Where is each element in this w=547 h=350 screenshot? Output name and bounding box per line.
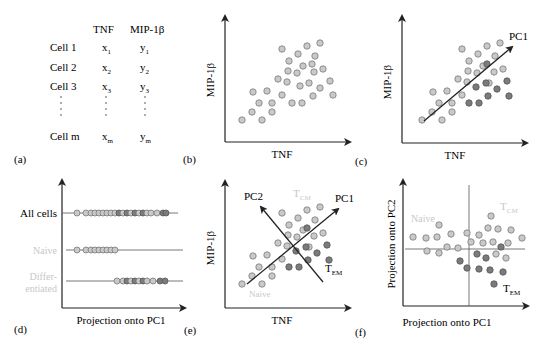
data-point — [300, 63, 306, 69]
row-cell-label: Cell m — [50, 130, 80, 142]
row-y-value: y1 — [140, 41, 150, 56]
panel-e-label: (e) — [184, 324, 197, 337]
panel-f-xlabel: Projection onto PC1 — [402, 316, 491, 328]
panel-d-xlabel: Projection onto PC1 — [76, 314, 165, 326]
panel-b-xlabel: TNF — [272, 148, 293, 160]
panel-c-label: (c) — [355, 155, 368, 168]
data-point — [310, 93, 316, 99]
data-point — [264, 88, 270, 94]
data-point — [495, 226, 501, 232]
data-point — [464, 230, 470, 236]
data-point — [320, 230, 326, 236]
data-point — [330, 92, 336, 98]
data-point — [465, 68, 471, 74]
data-point — [423, 235, 429, 241]
row-cell-label: Cell 2 — [50, 61, 77, 73]
data-point — [519, 235, 525, 241]
data-point — [459, 46, 465, 52]
data-point — [483, 255, 489, 261]
data-point — [500, 269, 506, 275]
data-point — [249, 109, 255, 115]
data-point — [294, 234, 300, 240]
data-point — [490, 239, 496, 245]
data-point — [114, 278, 120, 284]
data-point — [259, 281, 265, 287]
panel-b-ylabel: MIP-1β — [204, 62, 216, 97]
data-point — [317, 204, 323, 210]
data-point — [444, 88, 450, 94]
panel-b-points — [239, 40, 336, 123]
row-x-value: xm — [102, 130, 114, 145]
header-tnf: TNF — [93, 23, 114, 35]
row-y-value: ym — [140, 130, 152, 145]
data-point — [312, 217, 318, 223]
data-point — [317, 85, 323, 91]
data-point — [466, 100, 472, 106]
data-point — [466, 58, 472, 64]
data-point — [275, 240, 281, 246]
tcm-label: TCM — [500, 200, 518, 215]
data-point — [264, 252, 270, 258]
data-point — [485, 225, 491, 231]
data-point — [436, 222, 442, 228]
data-point — [410, 234, 416, 240]
data-point — [286, 264, 292, 270]
data-point — [506, 93, 512, 99]
data-point — [455, 245, 461, 251]
data-point — [436, 100, 442, 106]
panel-e-ylabel: MIP-1β — [204, 230, 216, 265]
data-point — [500, 66, 506, 72]
data-point — [491, 281, 497, 287]
pc2-label: PC2 — [244, 190, 263, 202]
data-point — [327, 78, 333, 84]
data-point — [295, 51, 301, 57]
data-point — [488, 213, 494, 219]
data-point — [259, 117, 265, 123]
row-differ: Differ- — [30, 271, 57, 282]
data-point — [455, 76, 461, 82]
data-point — [163, 210, 169, 216]
panel-a-table: TNF MIP-1β Cell 1x1y1Cell 2x2y2Cell 3x3y… — [14, 23, 165, 166]
data-point — [284, 79, 290, 85]
data-point — [256, 100, 262, 106]
data-point — [275, 76, 281, 82]
data-point — [74, 247, 80, 253]
data-point — [279, 210, 285, 216]
data-point — [444, 244, 450, 250]
data-point — [505, 240, 511, 246]
panel-c: PC1 TNF MIP-1β (c) — [355, 16, 528, 168]
naive-label: Naive — [249, 289, 271, 299]
data-point — [144, 278, 150, 284]
data-point — [493, 251, 499, 257]
row-y-value: y3 — [140, 80, 150, 95]
data-point — [314, 250, 320, 256]
panel-b: TNF MIP-1β (b) — [183, 16, 350, 166]
data-point — [269, 109, 275, 115]
data-point — [239, 281, 245, 287]
panel-b-label: (b) — [183, 153, 196, 166]
data-point — [112, 247, 118, 253]
data-point — [74, 210, 80, 216]
data-point — [494, 86, 500, 92]
data-point — [286, 58, 292, 64]
data-point — [439, 117, 445, 123]
data-point — [162, 278, 168, 284]
data-point — [279, 92, 285, 98]
data-point — [150, 278, 156, 284]
data-point — [305, 257, 311, 263]
panel-e-points — [239, 204, 332, 287]
data-point — [285, 68, 291, 74]
panel-c-xlabel: TNF — [445, 149, 466, 161]
data-point — [311, 233, 317, 239]
data-point — [449, 109, 455, 115]
data-point — [498, 244, 504, 250]
data-point — [289, 100, 295, 106]
header-mip: MIP-1β — [130, 23, 165, 35]
tcm-label: TCM — [293, 187, 311, 202]
row-y-value: y2 — [140, 61, 150, 76]
panel-c-ylabel: MIP-1β — [381, 64, 393, 99]
panel-f: Naive TCM TEM Projection onto PC1 Projec… — [355, 180, 528, 339]
data-point — [436, 250, 442, 256]
row-naive: Naive — [33, 245, 57, 256]
panel-e: PC2 PC1 TCM TEM Naive TNF MIP-1β (e) — [184, 181, 354, 337]
